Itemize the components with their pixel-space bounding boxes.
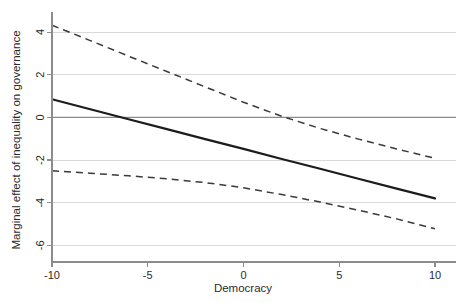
x-tick-label: 0 [240,269,246,281]
y-axis-title: Marginal effect of inequality on governa… [10,30,22,249]
x-tick-label: 10 [429,269,441,281]
chart-background [0,0,456,303]
x-tick-label: -10 [44,269,60,281]
x-tick-label: -5 [143,269,153,281]
y-tick-label: 2 [34,72,46,78]
y-tick-label: -4 [34,198,46,208]
marginal-effects-chart: -10-50510 420-2-4-6 Democracy Marginal e… [0,0,456,303]
y-tick-label: -2 [34,155,46,165]
y-tick-label: 0 [34,114,46,120]
x-axis-title: Democracy [214,282,272,294]
y-tick-label: -6 [34,240,46,250]
y-tick-label: 4 [34,29,46,35]
x-tick-label: 5 [336,269,342,281]
plot-area-svg: -10-50510 420-2-4-6 Democracy Marginal e… [0,0,456,303]
